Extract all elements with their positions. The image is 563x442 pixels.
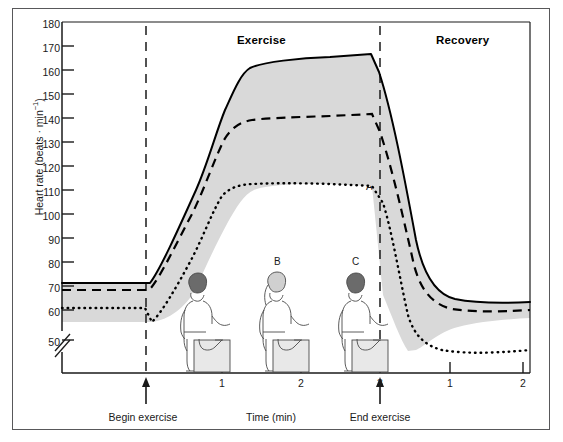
begin-exercise-arrow	[142, 377, 150, 404]
heart-rate-figure: Heart rate (beats · min−1) 180 170 160 1…	[0, 0, 563, 442]
step-illustration-b	[260, 272, 309, 372]
curve-a-dotted	[62, 183, 530, 352]
chart-plot-area	[0, 0, 563, 442]
end-exercise-arrow	[376, 377, 384, 404]
shaded-range-band	[62, 54, 530, 351]
